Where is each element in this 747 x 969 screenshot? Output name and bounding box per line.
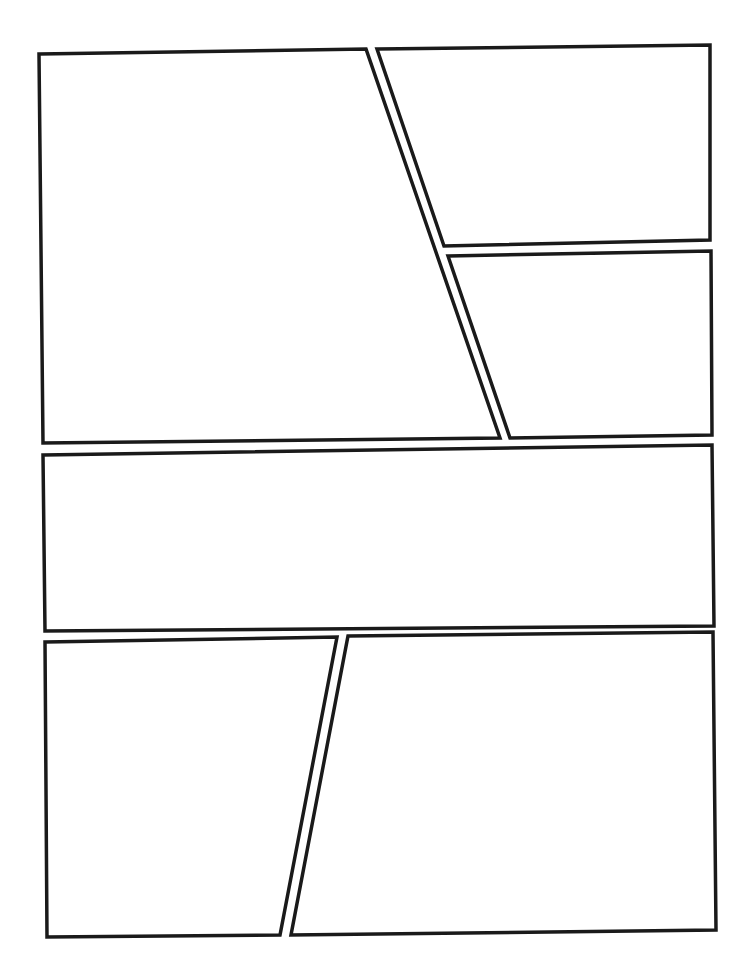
comic-page bbox=[0, 0, 747, 969]
panel-6 bbox=[291, 632, 716, 935]
panel-4 bbox=[43, 445, 714, 631]
